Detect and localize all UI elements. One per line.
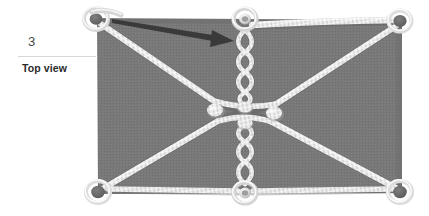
rope-bottom-edge-left (108, 189, 238, 192)
tarp-lacing-illustration (0, 0, 429, 216)
knot-lower-center (237, 117, 254, 130)
rope-bottom-edge-right (253, 189, 392, 192)
figure-stage: 3 Top view (0, 0, 429, 216)
knot-center-left (207, 104, 225, 119)
knot-center-right (266, 107, 284, 122)
knot-upper-center (237, 101, 254, 114)
